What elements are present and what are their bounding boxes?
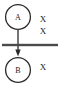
- petri-net-canvas: A B X X X: [0, 0, 60, 86]
- token-a-1-label: X: [40, 14, 47, 24]
- place-a-label: A: [15, 13, 21, 22]
- transition-bar: [2, 44, 58, 46]
- place-b-label: B: [15, 66, 20, 75]
- token-b-1-label: X: [40, 62, 47, 72]
- arrowhead-icon: [15, 50, 20, 57]
- token-a-2-label: X: [40, 26, 47, 36]
- petri-net-diagram: A B X X X: [0, 0, 60, 86]
